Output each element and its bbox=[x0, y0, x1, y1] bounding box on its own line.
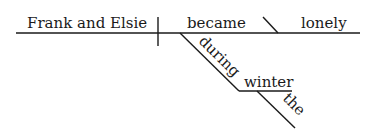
complement-slash bbox=[263, 17, 278, 33]
sentence-diagram: Frank and Elsie became lonely during win… bbox=[0, 0, 371, 135]
verb-text: became bbox=[187, 14, 246, 32]
preposition-text: during bbox=[195, 32, 244, 81]
object-text: winter bbox=[244, 73, 294, 91]
subject-text: Frank and Elsie bbox=[27, 14, 147, 32]
article-text: the bbox=[279, 89, 309, 119]
complement-text: lonely bbox=[301, 14, 347, 32]
